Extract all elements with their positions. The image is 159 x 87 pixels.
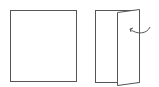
folded-card (96, 10, 140, 86)
folded-card-front-panel (118, 10, 140, 86)
card-fold-diagram (0, 0, 159, 87)
flat-card (11, 11, 77, 82)
